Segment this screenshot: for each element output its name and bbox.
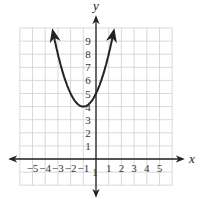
x-tick-label: −4 — [39, 162, 51, 174]
x-tick-label: 1 — [106, 162, 112, 174]
y-tick-label: 8 — [85, 48, 91, 60]
y-tick-label: 1 — [85, 140, 91, 152]
y-tick-label: 2 — [85, 127, 91, 139]
x-tick-label: −3 — [52, 162, 64, 174]
x-tick-label: 2 — [119, 162, 125, 174]
x-tick-label: 5 — [157, 162, 163, 174]
x-axis-label: x — [188, 151, 195, 166]
x-tick-label: 3 — [131, 162, 137, 174]
y-tick-label: 5 — [85, 88, 91, 100]
y-axis-label: y — [91, 0, 99, 13]
y-tick-label: 1 — [92, 166, 98, 178]
x-tick-label: −5 — [27, 162, 39, 174]
y-tick-label: 7 — [85, 61, 91, 73]
coordinate-plane: −5−4−3−2−1123451123456789 x y — [0, 0, 202, 203]
x-tick-label: −2 — [65, 162, 77, 174]
y-tick-label: 6 — [85, 74, 91, 86]
x-tick-label: −1 — [77, 162, 89, 174]
x-tick-label: 4 — [144, 162, 150, 174]
y-tick-label: 9 — [85, 35, 91, 47]
y-tick-label: 3 — [85, 114, 91, 126]
